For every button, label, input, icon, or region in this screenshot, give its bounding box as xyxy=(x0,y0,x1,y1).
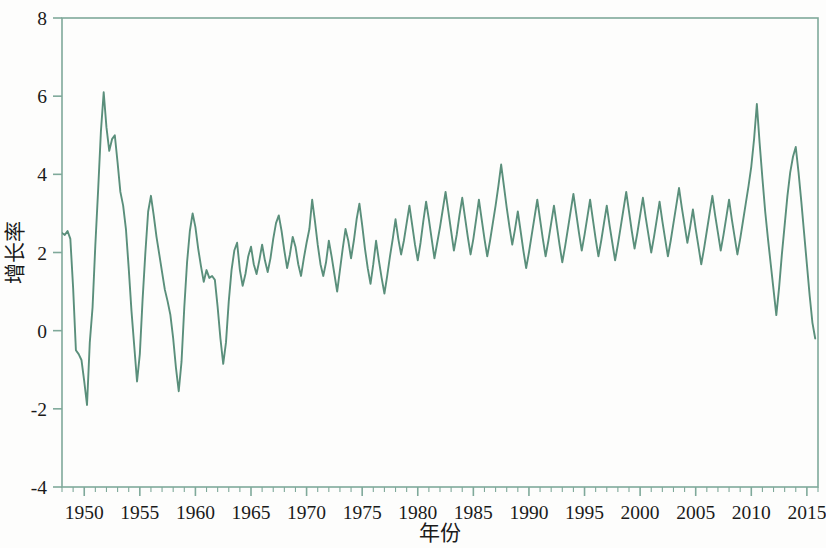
x-tick-label: 2010 xyxy=(732,502,771,523)
x-axis-title: 年份 xyxy=(419,521,461,545)
y-tick-label: -4 xyxy=(31,477,47,498)
x-tick-label: 1985 xyxy=(454,502,493,523)
y-tick-label: 8 xyxy=(37,8,47,29)
x-tick-label: 1955 xyxy=(120,502,159,523)
x-tick-label: 1970 xyxy=(287,502,326,523)
x-tick-label: 1975 xyxy=(343,502,382,523)
y-tick-label: 2 xyxy=(37,243,47,264)
data-series-line xyxy=(62,92,815,405)
x-tick-label: 1990 xyxy=(509,502,548,523)
x-tick-label: 1995 xyxy=(565,502,604,523)
x-tick-label: 2000 xyxy=(621,502,660,523)
line-chart-canvas: 1950195519601965197019751980198519901995… xyxy=(0,0,826,548)
x-tick-label: 1980 xyxy=(398,502,437,523)
x-tick-label: 1965 xyxy=(232,502,271,523)
y-tick-label: 4 xyxy=(37,164,47,185)
x-tick-label: 1960 xyxy=(176,502,215,523)
plot-frame xyxy=(62,18,818,487)
y-tick-label: -2 xyxy=(31,399,47,420)
y-tick-label: 6 xyxy=(37,86,47,107)
x-tick-label: 2015 xyxy=(787,502,826,523)
chart-figure: 1950195519601965197019751980198519901995… xyxy=(0,0,826,548)
x-tick-label: 1950 xyxy=(65,502,104,523)
x-tick-label: 2005 xyxy=(676,502,715,523)
y-axis-title: 增长率 xyxy=(3,221,27,284)
y-tick-label: 0 xyxy=(37,321,47,342)
